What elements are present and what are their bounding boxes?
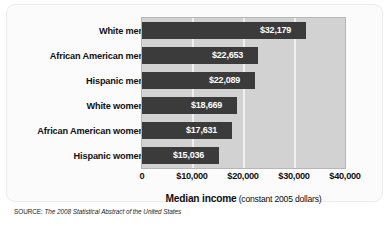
source-note: SOURCE: The 2008 Statistical Abstract of… xyxy=(14,208,181,215)
bar-value-label: $22,653 xyxy=(212,47,243,64)
source-title: The 2008 Statistical Abstract of the Uni… xyxy=(45,208,182,215)
category-label-african-american-men: African American men xyxy=(0,51,144,61)
category-label-african-american-women: African American women xyxy=(0,126,144,136)
x-axis-title-note: (constant 2005 dollars) xyxy=(239,194,322,204)
xtick-label-10000: $10,000 xyxy=(176,171,207,181)
x-axis-title: Median income (constant 2005 dollars) xyxy=(141,188,346,206)
x-axis-title-main: Median income xyxy=(165,193,236,204)
plot-area: $32,179 $22,653 $22,089 $18,669 $17,631 … xyxy=(141,17,346,169)
source-label: SOURCE: xyxy=(14,208,43,215)
bar-value-label: $18,669 xyxy=(191,97,222,114)
category-label-hispanic-women: Hispanic women xyxy=(0,151,144,161)
category-label-white-women: White women xyxy=(0,101,144,111)
category-label-hispanic-men: Hispanic men xyxy=(0,76,144,86)
bar-chart: White men African American men Hispanic … xyxy=(0,0,389,226)
xtick-label-20000: $20,000 xyxy=(227,171,258,181)
gridline-30000 xyxy=(294,18,296,168)
bar-value-label: $15,036 xyxy=(173,147,204,164)
xtick-label-0: 0 xyxy=(140,171,145,181)
xtick-label-40000: $40,000 xyxy=(329,171,360,181)
gridline-20000 xyxy=(243,18,245,168)
category-label-white-men: White men xyxy=(0,26,144,36)
bar-value-label: $17,631 xyxy=(186,122,217,139)
xtick-label-30000: $30,000 xyxy=(278,171,309,181)
bar-white-women[interactable] xyxy=(142,97,237,114)
bar-value-label: $22,089 xyxy=(209,72,240,89)
gridline-10000 xyxy=(192,18,194,168)
bar-value-label: $32,179 xyxy=(260,22,291,39)
